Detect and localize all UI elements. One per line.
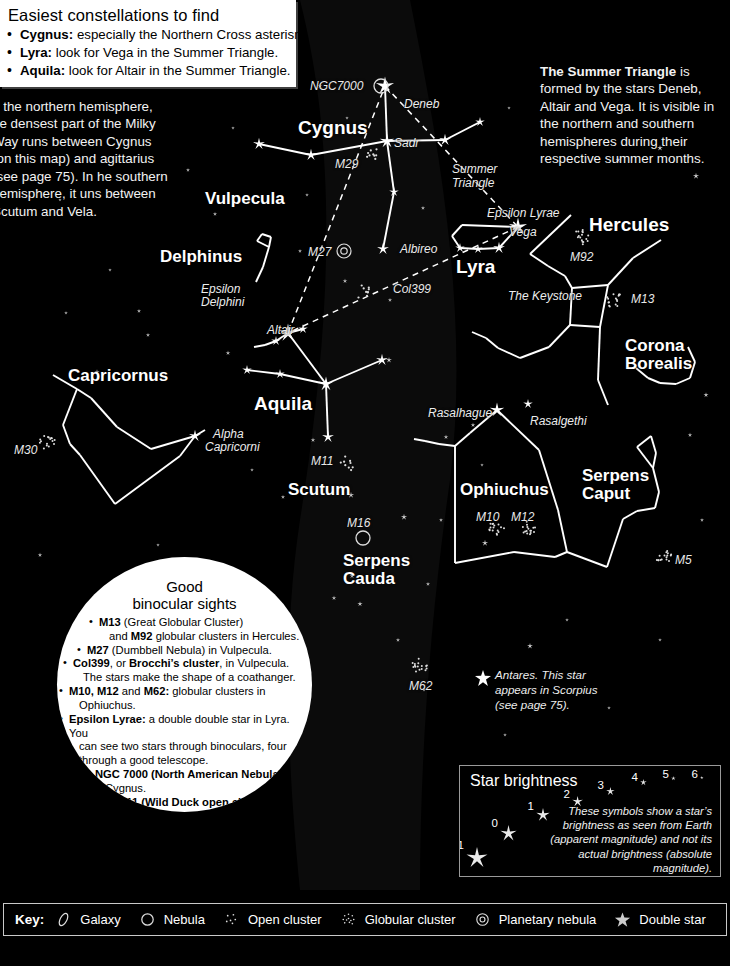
easiest-item-cygnus-text: especially the Northern Cross asterism. <box>73 27 309 42</box>
field-star-14 <box>471 422 476 427</box>
easiest-item-lyra-text: look for Vega in the Summer Triangle. <box>52 45 278 60</box>
binocular-item: NGC 7000 (North American Nebula) inCygnu… <box>85 768 302 796</box>
field-star-38 <box>480 463 483 466</box>
dso-label-m12: M12 <box>511 511 534 523</box>
field-star-42 <box>250 468 254 472</box>
easiest-item-aquila-text: look for Altair in the Summer Triangle. <box>65 63 290 78</box>
corona-line2: Borealis <box>625 355 692 373</box>
summer-triangle-note: The Summer Triangle is formed by the sta… <box>540 63 720 168</box>
key-label: Key: <box>15 912 44 927</box>
globular-cluster-icon <box>339 910 358 929</box>
nebula-icon <box>138 910 157 929</box>
field-star-44 <box>108 268 111 271</box>
magnitude-star-0: 0 <box>492 817 517 840</box>
key-item-globular-cluster: Globular cluster <box>339 910 456 929</box>
star-brightness-panel: Star brightness -10123456 These symbols … <box>459 765 721 877</box>
magnitude-star-3: 3 <box>598 779 615 795</box>
key-item-galaxy: Galaxy <box>54 910 120 929</box>
magnitude-star--1: -1 <box>460 839 487 867</box>
milky-way-note: n the northern hemisphere, he densest pa… <box>0 98 170 220</box>
magnitude-value-2: 2 <box>564 788 570 800</box>
field-star-32 <box>38 553 43 557</box>
constellation-label-ophiuchus: Ophiuchus <box>460 481 549 498</box>
open-cluster-icon <box>222 910 241 929</box>
dso-m92 <box>575 229 589 245</box>
binocular-sights-panel: Good binocular sights M13 (Great Globula… <box>57 557 312 812</box>
star-label-deneb: Deneb <box>404 98 439 110</box>
field-star-27 <box>305 193 309 197</box>
star-aql-s <box>271 336 281 345</box>
star-label-sadr: Sadr <box>394 137 419 149</box>
star-label-epsilon: Epsilon <box>201 283 240 295</box>
key-label-nebula: Nebula <box>164 912 205 927</box>
magnitude-star-5: 5 <box>663 768 676 780</box>
easiest-item-aquila: Aquila: look for Altair in the Summer Tr… <box>6 62 288 80</box>
dso-label-m62: M62 <box>409 680 432 692</box>
serpens-caput-line2: Caput <box>582 485 649 503</box>
binocular-item: M11 (Wild Duck open cluster) inScutum. <box>107 796 302 812</box>
magnitude-star-4: 4 <box>632 771 647 785</box>
constellation-label-lyra: Lyra <box>456 257 495 276</box>
serpens-cauda-line1: Serpens <box>343 552 410 570</box>
antares-star-icon <box>474 669 492 687</box>
asterism-label-triangle: Triangle <box>452 177 494 189</box>
binocular-title-line2: binocular sights <box>67 596 302 613</box>
magnitude-value--1: -1 <box>460 839 464 851</box>
asterism-label-summer: Summer <box>452 163 497 175</box>
serpens-caput-line1: Serpens <box>582 467 649 485</box>
serpens-cauda-line2: Cauda <box>343 570 410 588</box>
field-star-24 <box>186 168 190 172</box>
summer-triangle-note-bold: The Summer Triangle <box>540 64 676 79</box>
field-star-11 <box>482 540 488 546</box>
magnitude-star-6: 6 <box>692 768 704 780</box>
star-label-epsilon-lyrae: Epsilon Lyrae <box>487 207 560 219</box>
field-star-19 <box>281 495 285 499</box>
easiest-item-cygnus: Cygnus: especially the Northern Cross as… <box>6 26 288 44</box>
constellation-label-aquila: Aquila <box>254 394 312 413</box>
key-item-nebula: Nebula <box>138 910 205 929</box>
easiest-item-aquila-name: Aquila: <box>20 63 65 78</box>
asterism-label-keystone: The Keystone <box>508 290 582 302</box>
dso-label-m10: M10 <box>476 511 499 523</box>
magnitude-value-6: 6 <box>692 768 698 780</box>
field-star-2 <box>146 333 150 337</box>
constellation-label-scutum: Scutum <box>288 481 350 498</box>
constellation-label-delphinus: Delphinus <box>160 248 242 265</box>
star-brightness-description: These symbols show a star’s brightness a… <box>546 804 712 875</box>
double-star-icon <box>613 910 632 929</box>
binocular-item: M13 (Great Globular Cluster)and M92 glob… <box>89 616 302 644</box>
field-star-18 <box>226 350 231 355</box>
dso-label-m11: M11 <box>311 455 333 467</box>
corona-line1: Corona <box>625 337 692 355</box>
key-label-planetary-nebula: Planetary nebula <box>499 912 597 927</box>
field-star-46 <box>231 126 234 129</box>
field-star-47 <box>507 106 510 109</box>
star-label-altair: Altair <box>267 324 294 336</box>
key-label-open-cluster: Open cluster <box>248 912 322 927</box>
dso-label-m16: M16 <box>347 517 370 529</box>
field-star-29 <box>688 433 693 437</box>
binocular-item: Col399, or Brocchi’s cluster, in Vulpecu… <box>63 657 302 685</box>
easiest-item-lyra-name: Lyra: <box>20 45 52 60</box>
antares-note: Antares. This star appears in Scorpius (… <box>495 668 615 712</box>
dso-m5 <box>656 550 672 562</box>
field-star-15 <box>693 173 699 179</box>
star-label-alpha: Alpha <box>213 428 244 440</box>
dso-label-ngc7000: NGC7000 <box>310 80 363 92</box>
dso-m13 <box>606 293 621 307</box>
field-star-34 <box>503 733 507 737</box>
binocular-item: M27 (Dumbbell Nebula) in Vulpecula. <box>77 644 302 658</box>
key-item-double-star: Double star <box>613 910 705 929</box>
star-label-rasalhague: Rasalhague <box>428 407 492 419</box>
field-star-12 <box>527 643 533 649</box>
constellation-label-cygnus: Cygnus <box>298 118 368 137</box>
dso-m10 <box>488 523 505 536</box>
key-bar: Key: Galaxy Nebula Open cluster <box>3 903 727 936</box>
star-label-delphini: Delphini <box>201 296 244 308</box>
field-star-39 <box>565 618 569 622</box>
summer-triangle-note-rest: is formed by the stars Deneb, Altair and… <box>540 64 714 166</box>
constellation-label-capricornus: Capricornus <box>68 367 168 384</box>
key-label-galaxy: Galaxy <box>80 912 120 927</box>
easiest-item-lyra: Lyra: look for Vega in the Summer Triang… <box>6 44 288 62</box>
magnitude-value-1: 1 <box>528 800 534 812</box>
